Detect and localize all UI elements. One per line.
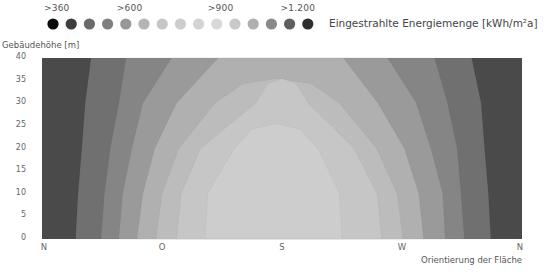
- contour-plot: [0, 0, 550, 280]
